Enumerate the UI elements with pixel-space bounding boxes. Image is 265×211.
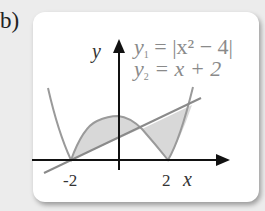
y-axis-arrow-icon (113, 39, 125, 53)
graph (0, 0, 265, 211)
x-axis-label: x (183, 168, 192, 191)
tick-pos-2: 2 (162, 171, 171, 191)
equation-y2: y2 = x + 2 (134, 59, 221, 87)
y-axis-label: y (92, 40, 101, 63)
tick-neg-2: -2 (63, 171, 77, 191)
x-axis-arrow-icon (216, 154, 230, 166)
